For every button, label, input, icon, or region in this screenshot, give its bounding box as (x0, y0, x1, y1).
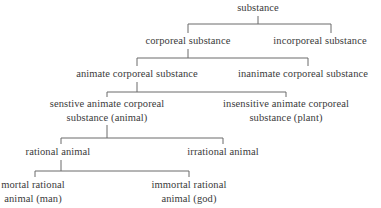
node-label: corporeal substance (146, 34, 231, 48)
node-label: animate corporeal substance (76, 67, 198, 81)
node-animate-corporeal-substance: animate corporeal substance (76, 67, 198, 81)
node-label: inanimate corporeal substance (238, 67, 368, 81)
node-label-line2: animal (god) (152, 192, 227, 206)
node-label: irrational animal (187, 145, 258, 159)
node-insensitive-plant: insensitive animate corporeal substance … (223, 97, 349, 125)
node-label-line1: immortal rational (152, 178, 227, 192)
node-sensitive-animal: senstive animate corporeal substance (an… (50, 97, 165, 125)
node-label-line1: senstive animate corporeal (50, 97, 165, 111)
node-incorporeal-substance: incorporeal substance (273, 34, 366, 48)
node-label: incorporeal substance (273, 34, 366, 48)
node-mortal-rational-animal: mortal rational animal (man) (1, 178, 65, 206)
node-rational-animal: rational animal (26, 145, 91, 159)
node-immortal-rational-animal: immortal rational animal (god) (152, 178, 227, 206)
node-corporeal-substance: corporeal substance (146, 34, 231, 48)
node-irrational-animal: irrational animal (187, 145, 258, 159)
node-label-line2: substance (animal) (50, 111, 165, 125)
porphyrian-tree-diagram: substance corporeal substance incorporea… (0, 0, 381, 208)
node-label-line1: insensitive animate corporeal (223, 97, 349, 111)
node-label-line1: mortal rational (1, 178, 65, 192)
node-label-line2: animal (man) (1, 192, 65, 206)
node-label-line2: substance (plant) (223, 111, 349, 125)
node-label: rational animal (26, 145, 91, 159)
node-label: substance (237, 1, 279, 15)
node-inanimate-corporeal-substance: inanimate corporeal substance (238, 67, 368, 81)
node-substance: substance (237, 1, 279, 15)
